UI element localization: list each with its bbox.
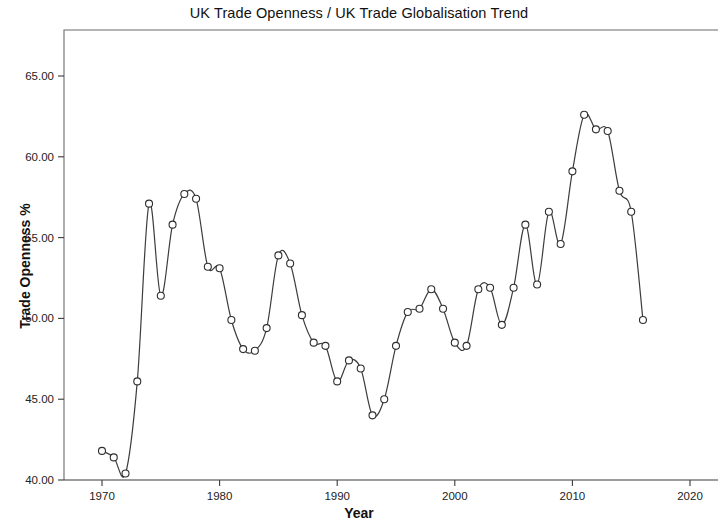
data-point-marker: [581, 111, 588, 118]
data-point-marker: [345, 357, 352, 364]
data-point-marker: [522, 221, 529, 228]
plot-frame: [64, 30, 718, 480]
data-point-marker: [110, 454, 117, 461]
data-point-marker: [545, 208, 552, 215]
data-point-marker: [569, 168, 576, 175]
data-point-marker: [381, 396, 388, 403]
data-point-marker: [393, 342, 400, 349]
data-point-marker: [628, 208, 635, 215]
data-point-marker: [534, 281, 541, 288]
data-point-marker: [193, 195, 200, 202]
data-point-marker: [440, 305, 447, 312]
data-point-marker: [169, 221, 176, 228]
data-point-marker: [157, 292, 164, 299]
x-tick-label: 1980: [207, 490, 233, 502]
x-tick-label: 1970: [89, 490, 115, 502]
data-point-marker: [251, 347, 258, 354]
data-point-marker: [357, 365, 364, 372]
y-tick-label: 40.00: [25, 474, 54, 486]
data-point-marker: [181, 190, 188, 197]
y-tick-label: 45.00: [25, 393, 54, 405]
x-tick-label: 2000: [442, 490, 468, 502]
y-axis-ticks: 40.0045.0050.0055.0060.0065.00: [25, 70, 64, 486]
data-point-marker: [322, 342, 329, 349]
x-tick-label: 2010: [560, 490, 586, 502]
data-point-marker: [240, 346, 247, 353]
data-point-marker: [204, 263, 211, 270]
data-point-marker: [134, 378, 141, 385]
data-point-marker: [287, 260, 294, 267]
data-point-marker: [310, 339, 317, 346]
data-point-marker: [146, 200, 153, 207]
data-point-marker: [369, 412, 376, 419]
data-point-marker: [639, 317, 646, 324]
data-point-marker: [416, 305, 423, 312]
data-point-marker: [334, 378, 341, 385]
x-axis-ticks: 197019801990200020102020: [89, 480, 703, 502]
data-point-marker: [616, 187, 623, 194]
series-line-trade-openness: [102, 113, 643, 477]
plot-area: 40.0045.0050.0055.0060.0065.00 197019801…: [0, 0, 718, 528]
data-point-marker: [475, 286, 482, 293]
y-tick-label: 65.00: [25, 70, 54, 82]
y-tick-label: 50.00: [25, 312, 54, 324]
chart-figure: UK Trade Openness / UK Trade Globalisati…: [0, 0, 718, 528]
data-point-marker: [122, 470, 129, 477]
data-point-marker: [228, 317, 235, 324]
data-point-marker: [404, 308, 411, 315]
data-point-marker: [498, 321, 505, 328]
data-point-marker: [604, 127, 611, 134]
x-tick-label: 1990: [324, 490, 350, 502]
data-point-marker: [298, 312, 305, 319]
data-point-marker: [428, 286, 435, 293]
data-point-marker: [557, 241, 564, 248]
data-point-marker: [463, 342, 470, 349]
y-tick-label: 60.00: [25, 151, 54, 163]
data-point-marker: [99, 447, 106, 454]
x-tick-label: 2020: [677, 490, 703, 502]
y-tick-label: 55.00: [25, 232, 54, 244]
data-point-marker: [275, 252, 282, 259]
data-point-marker: [216, 265, 223, 272]
data-point-marker: [510, 284, 517, 291]
data-point-marker: [263, 325, 270, 332]
series-markers-trade-openness: [99, 111, 647, 477]
data-point-marker: [451, 339, 458, 346]
data-point-marker: [592, 126, 599, 133]
data-point-marker: [487, 284, 494, 291]
